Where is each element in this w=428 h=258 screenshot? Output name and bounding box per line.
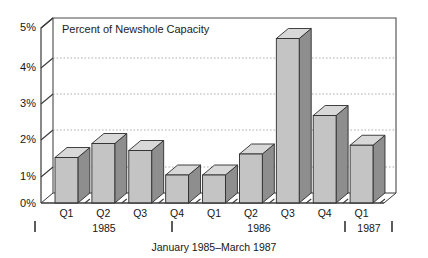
ytick-3pct — [41, 94, 53, 104]
bar-side-face — [115, 134, 127, 204]
y-tick-label: 5% — [20, 21, 36, 33]
bar-side-face — [299, 29, 311, 204]
y-tick-label: 4% — [20, 61, 36, 73]
year-groups: 1985 1986 1987 — [35, 221, 392, 234]
ytick-1pct — [41, 167, 53, 177]
bar-front-face — [203, 175, 226, 203]
plot-title: Percent of Newshole Capacity — [62, 23, 210, 35]
bar-side-face — [336, 106, 348, 204]
bar-1985-Q3[interactable] — [129, 141, 164, 204]
year-label-1986: 1986 — [247, 222, 271, 234]
y-tick-label: 2% — [20, 133, 36, 145]
bar-1986-Q1[interactable] — [203, 165, 238, 203]
y-tick-label: 1% — [20, 170, 36, 182]
year-label-1985: 1985 — [92, 222, 116, 234]
year-label-1987: 1987 — [357, 222, 381, 234]
bar-1985-Q1[interactable] — [55, 148, 90, 204]
bar-front-face — [313, 116, 336, 204]
bar-1985-Q2[interactable] — [92, 134, 127, 204]
x-tick-label: Q1 — [355, 207, 369, 219]
bar-side-face — [373, 135, 385, 203]
x-tick-label: Q2 — [96, 207, 110, 219]
x-tick-label: Q2 — [244, 207, 258, 219]
bar-front-face — [129, 151, 152, 204]
bar-front-face — [276, 39, 299, 204]
y-tick-label: 3% — [20, 97, 36, 109]
x-tick-label: Q3 — [281, 207, 295, 219]
bar-1985-Q4[interactable] — [166, 165, 201, 203]
bar-front-face — [166, 175, 189, 203]
x-axis-title: January 1985–March 1987 — [152, 241, 277, 253]
y-axis-labels: 5% 4% 3% 2% 1% 0% — [20, 21, 36, 209]
ytick-4pct — [41, 58, 53, 68]
bar-1986-Q4[interactable] — [313, 106, 348, 204]
x-tick-label: Q3 — [133, 207, 147, 219]
bar-chart: 5% 4% 3% 2% 1% 0% Percent of Newshole Ca… — [0, 0, 428, 258]
y-axis-ticks — [41, 18, 53, 177]
bar-1987-Q1[interactable] — [350, 135, 385, 203]
bar-1986-Q3[interactable] — [276, 29, 311, 204]
x-tick-label: Q4 — [170, 207, 184, 219]
x-tick-label: Q1 — [59, 207, 73, 219]
bars-group — [55, 29, 385, 204]
ytick-5pct — [41, 18, 53, 28]
bar-side-face — [152, 141, 164, 204]
x-tick-label: Q1 — [207, 207, 221, 219]
bar-1986-Q2[interactable] — [239, 144, 274, 203]
bar-front-face — [55, 158, 78, 204]
chart-container: 5% 4% 3% 2% 1% 0% Percent of Newshole Ca… — [0, 0, 428, 258]
bar-front-face — [239, 154, 262, 203]
x-tick-label: Q4 — [318, 207, 332, 219]
x-axis-labels: Q1Q2Q3Q4Q1Q2Q3Q4Q1 — [59, 207, 368, 219]
bar-front-face — [350, 145, 373, 203]
y-tick-label: 0% — [20, 197, 36, 209]
ytick-2pct — [41, 130, 53, 140]
bar-front-face — [92, 144, 115, 204]
